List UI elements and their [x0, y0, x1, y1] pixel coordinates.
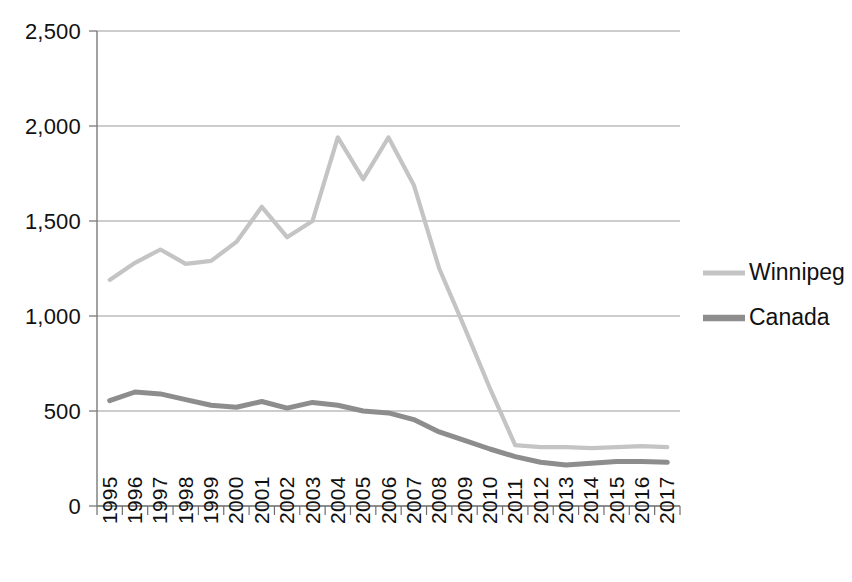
y-tick-label: 2,500	[25, 19, 81, 44]
x-tick-label: 1995	[98, 476, 121, 524]
legend-label-canada: Canada	[749, 304, 830, 330]
x-tick-label: 1996	[123, 476, 146, 524]
x-tick-label: 1999	[199, 476, 222, 524]
y-tick-label: 500	[44, 399, 81, 424]
x-tick-label: 2015	[605, 476, 628, 524]
x-tick-label: 1998	[174, 476, 197, 524]
x-tick-label: 2001	[250, 476, 273, 524]
line-chart: 05001,0001,5002,0002,500 199519961997199…	[0, 0, 852, 582]
x-tick-label: 2005	[351, 476, 374, 524]
x-tick-label: 2017	[655, 476, 678, 524]
x-tick-label: 2007	[402, 476, 425, 524]
x-tick-label: 2006	[377, 476, 400, 524]
x-tick-label: 2008	[427, 476, 450, 524]
x-tick-label: 2004	[326, 476, 349, 524]
x-tick-label: 2014	[579, 476, 602, 524]
y-tick-label: 0	[69, 494, 81, 519]
x-axis-tick-labels: 1995199619971998199920002001200220032004…	[98, 476, 679, 524]
y-tick-label: 1,000	[25, 304, 81, 329]
x-tick-label: 2000	[224, 476, 247, 524]
x-tick-label: 2012	[529, 476, 552, 524]
x-tick-label: 2009	[453, 476, 476, 524]
x-tick-label: 2011	[503, 478, 526, 524]
y-tick-label: 1,500	[25, 209, 81, 234]
chart-canvas: 05001,0001,5002,0002,500 199519961997199…	[0, 0, 852, 582]
x-tick-label: 2002	[275, 476, 298, 524]
x-tick-label: 2003	[301, 476, 324, 524]
y-tick-label: 2,000	[25, 114, 81, 139]
x-tick-label: 2016	[630, 476, 653, 524]
x-tick-label: 1997	[148, 476, 171, 524]
legend-label-winnipeg: Winnipeg	[749, 259, 845, 285]
x-tick-label: 2013	[554, 476, 577, 524]
x-tick-label: 2010	[478, 476, 501, 524]
